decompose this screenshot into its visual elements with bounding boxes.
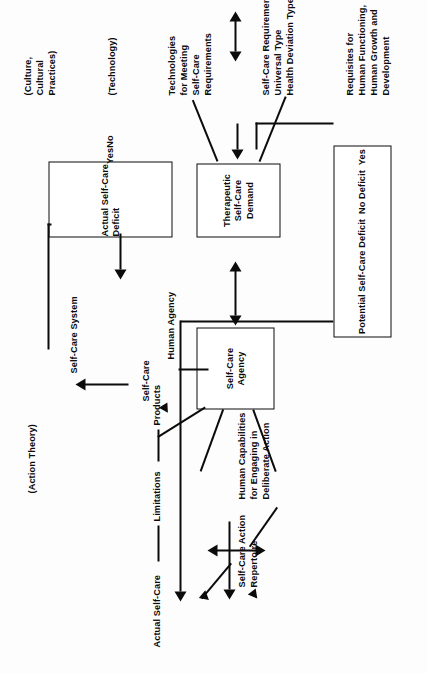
label-self-care-requirements-line2: Universal Type [272,29,284,95]
connector-human-agency [178,368,208,370]
label-human-agency: Human Agency [165,291,177,359]
box-potential-option-no-deficit[interactable]: No Deficit [356,170,368,214]
arrow-repertoire-to-limitations-head [198,590,211,603]
feedback-line-horizontal [179,320,181,591]
no-branch-line-horizontal [47,223,49,349]
connector-agency-to-repertoire [199,409,223,472]
box-therapeutic-line2: Self-Care [232,179,244,220]
label-actual-self-care: Actual Self-Care [151,574,163,647]
label-human-capabilities-line1: Human Capabilities [236,412,248,499]
yes-branch-arrowhead [114,269,126,279]
label-technologies-line2: for Meeting [178,44,190,95]
box-actual-self-care-deficit-option-no[interactable]: No [104,135,116,147]
box-potential-option-yes[interactable]: Yes [356,149,368,165]
annotation-action-theory: (Action Theory) [26,424,38,493]
box-actual-self-care-deficit[interactable]: Actual Self-Care Deficit Yes No [48,161,172,237]
annotation-culture-line3: Practices) [46,50,58,95]
diagram-canvas: (Action Theory) Actual Self-Care Limitat… [0,0,427,673]
arrow-potential-to-therapeutic-head [231,149,243,159]
arrow-center-to-limitations-shaft [228,521,230,589]
potential-yes-line-horizontal [255,122,257,149]
box-therapeutic-self-care-demand[interactable]: Therapeutic Self-Care Demand [196,163,280,237]
label-requisites-line1: Requisites for [344,32,356,95]
box-potential-self-care-deficit[interactable]: Potential Self-Care Deficit No Deficit Y… [333,145,391,337]
bidir-agency-demand-shaft [234,269,236,315]
label-self-care: Self-Care [140,360,152,401]
bidir-agency-demand-head-right [229,261,241,271]
arrow-to-self-care-system-shaft [84,383,128,385]
box-therapeutic-line1: Therapeutic [221,173,233,226]
arrow-capabilities-to-limitations-shaft [249,507,278,547]
box-actual-self-care-deficit-option-yes[interactable]: Yes [104,147,116,163]
yes-branch-line [119,233,121,269]
arrow-to-self-care-system-head [75,378,85,390]
annotation-culture-line2: Cultural [34,59,46,95]
annotation-culture-line1: (Culture, [22,56,34,95]
feedback-line-vertical [180,320,333,322]
connector-limitations-products [157,429,159,461]
box-self-care-agency-line2: Agency [235,351,247,385]
label-products: Products [151,384,163,425]
label-technologies-line3: Self-Care [190,54,202,95]
bidir-technologies-requirements-shaft [234,19,236,51]
arrow-capabilities-to-limitations-head [247,588,260,601]
label-self-care-requirements-line1: Self-Care Requirements [260,0,272,95]
label-self-care-system: Self-Care System [68,296,80,373]
label-technologies-line4: Requirements [202,33,214,95]
arrow-potential-to-therapeutic-shaft [236,123,238,149]
box-self-care-agency-line1: Self-Care [224,347,236,388]
bidir-technologies-requirements-head-right [229,11,241,21]
box-actual-self-care-deficit-title1: Actual Self-Care [99,163,111,236]
no-branch-line-stub [47,223,51,225]
label-technologies-line1: Technologies [166,35,178,95]
bidir-technologies-requirements-head-left [229,51,241,61]
label-human-capabilities-line2: for Engaging in [248,430,260,499]
arrow-center-to-limitations-head [223,589,235,599]
label-requisites-line3: Human Growth and [368,9,380,95]
connector-demand-to-requirements [258,96,286,162]
bidir-repertoire-capabilities-head-down [255,544,265,556]
annotation-technology: (Technology) [106,37,118,95]
feedback-arrowhead [174,591,186,601]
label-requisites-line2: Human Functioning, [356,4,368,95]
box-therapeutic-line3: Demand [244,182,256,219]
bidir-repertoire-capabilities-shaft [216,549,257,551]
label-self-care-requirements-line3: Health Deviation Type [284,0,296,95]
bidir-agency-demand-head-left [229,315,241,325]
potential-yes-line-vertical [255,122,333,124]
box-potential-title: Potential Self-Care Deficit [356,218,368,333]
label-requisites-line4: Development [380,36,392,95]
box-actual-self-care-deficit-title2: Deficit [110,207,122,236]
diagram-stage: (Action Theory) Actual Self-Care Limitat… [0,0,427,673]
label-limitations: Limitations [151,471,163,521]
connector-actual-self-care-limitations [157,525,159,561]
bidir-repertoire-capabilities-head-up [207,544,217,556]
connector-demand-to-technologies [191,99,217,161]
